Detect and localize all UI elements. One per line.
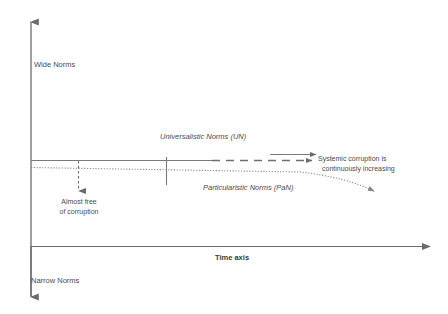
time-axis-label: Time axis <box>215 253 249 262</box>
diagram-canvas: Wide Norms Narrow Norms Time axis Univer… <box>0 0 448 314</box>
narrow-norms-label: Narrow Norms <box>31 276 79 285</box>
systemic-corruption-label-line2: continuously increasing <box>322 165 395 174</box>
almost-free-label-line1: Almost free <box>48 198 110 207</box>
almost-free-label-line2: of corruption <box>48 208 110 217</box>
wide-norms-label: Wide Norms <box>34 60 75 69</box>
universalistic-norms-label: Universalistic Norms (UN) <box>160 132 246 141</box>
systemic-corruption-label-line1: Systemic corruption is <box>318 155 386 164</box>
particularistic-norms-label: Particularistic Norms (PaN) <box>203 183 293 192</box>
